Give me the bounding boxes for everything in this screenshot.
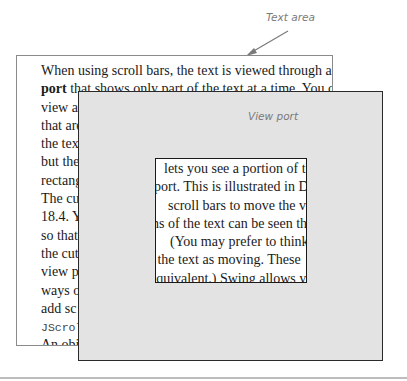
view-port-visible-text: lets you see a portion of theport. This … xyxy=(155,160,307,283)
view-port-line: scroll bars to move the view xyxy=(155,197,307,215)
view-port-label: View port xyxy=(248,110,298,122)
text-line: When using scroll bars, the text is view… xyxy=(41,62,331,80)
view-port-line: port. This is illustrated in Dis xyxy=(155,178,307,196)
view-port-line: equivalent.) Swing allows you xyxy=(155,270,307,283)
bottom-divider xyxy=(0,377,407,379)
text-area-label: Text area xyxy=(266,11,315,23)
view-port-window: lets you see a portion of theport. This … xyxy=(155,158,307,283)
view-port-line: lets you see a portion of the xyxy=(155,160,307,178)
view-port-line: l the text as moving. These xyxy=(155,251,307,269)
view-port-line: ns of the text can be seen thro xyxy=(155,215,307,233)
view-port-line: (You may prefer to think of xyxy=(155,233,307,251)
